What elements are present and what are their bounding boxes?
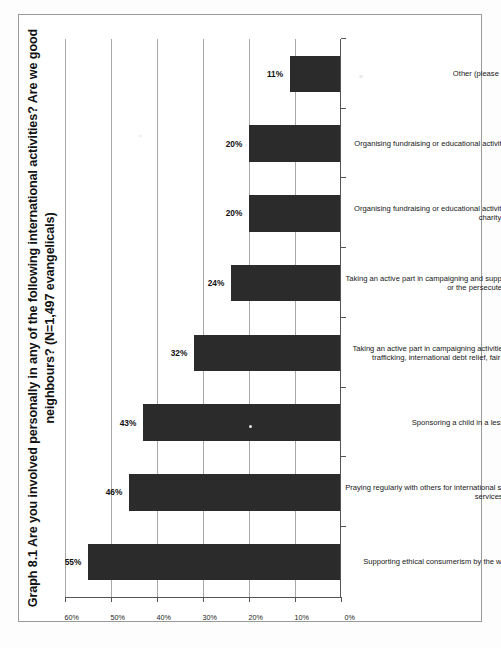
category-label: Taking an active part in campaigning act… [345,343,501,362]
scanned-page: Graph 8.1 Are you involved personally in… [0,0,501,648]
category-label: Other (please specify) [345,69,501,78]
category-label: Organising fundraising or educational ac… [345,139,501,148]
value-tick-label: 40% [143,613,171,622]
bar [231,265,341,301]
category-label-slot: Other (please specify) [345,39,475,109]
bar-value-label: 20% [226,139,243,149]
plot-area: 0%10%20%30%40%50%60% 55%46%43%32%24%20%2… [65,39,341,597]
bar-slot: 32% [65,318,341,388]
chart-title: Graph 8.1 Are you involved personally in… [25,15,59,621]
bar-value-label: 24% [207,278,224,288]
category-label: Praying regularly with others for intern… [345,483,501,502]
bar [290,56,341,92]
category-label-slot: Taking an active part in campaigning act… [345,318,475,388]
category-label-slot: Praying regularly with others for intern… [345,458,475,528]
value-tick [341,597,342,602]
value-tick-label: 10% [281,613,309,622]
bar [143,405,341,441]
value-tick-label: 50% [97,613,125,622]
category-label: Organising fundraising or educational ac… [345,204,501,223]
bar-value-label: 20% [226,208,243,218]
bar-slot: 11% [65,39,341,109]
bar-slot: 55% [65,527,341,597]
value-tick [157,597,158,602]
plot-inner: 0%10%20%30%40%50%60% 55%46%43%32%24%20%2… [65,39,341,597]
chart-frame: Graph 8.1 Are you involved personally in… [18,14,482,622]
bar-slot: 46% [65,458,341,528]
value-tick [249,597,250,602]
category-label-slot: Supporting ethical consumerism by the wa… [345,527,475,597]
value-tick-label: 20% [235,613,263,622]
bar-slot: 20% [65,179,341,249]
category-label-slot: Organising fundraising or educational ac… [345,179,475,249]
bar-value-label: 55% [65,557,82,567]
rotated-chart-stage: Graph 8.1 Are you involved personally in… [19,15,481,621]
category-label: Taking an active part in campaigning and… [345,274,501,293]
value-tick-label: 0% [327,613,355,622]
bar-value-label: 46% [106,487,123,497]
bar [249,195,341,231]
bar [249,126,341,162]
bar-value-label: 43% [120,418,137,428]
value-tick [111,597,112,602]
bar [129,474,341,510]
bar [88,544,341,580]
bar [194,335,341,371]
value-tick [203,597,204,602]
bar-slot: 20% [65,109,341,179]
category-label: Supporting ethical consumerism by the wa… [345,557,501,566]
value-tick [65,597,66,602]
value-tick-label: 30% [189,613,217,622]
value-tick-label: 60% [51,613,79,622]
category-axis [340,39,341,597]
category-label-slot: Taking an active part in campaigning and… [345,248,475,318]
bar-value-label: 32% [171,348,188,358]
category-label-slot: Sponsoring a child in a less developed c… [345,388,475,458]
category-label: Sponsoring a child in a less developed c… [345,418,501,427]
category-labels: Supporting ethical consumerism by the wa… [345,39,475,597]
category-label-slot: Organising fundraising or educational ac… [345,109,475,179]
value-tick [295,597,296,602]
bar-value-label: 11% [267,69,283,79]
bar-slot: 43% [65,388,341,458]
bar-slot: 24% [65,248,341,318]
